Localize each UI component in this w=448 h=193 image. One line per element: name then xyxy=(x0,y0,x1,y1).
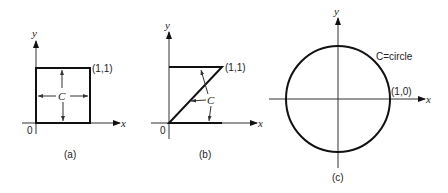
caption: (b) xyxy=(199,149,211,160)
caption: (a) xyxy=(64,149,76,160)
x-axis-label: x xyxy=(425,93,431,105)
x-axis-label: x xyxy=(120,117,126,129)
curve-label: C xyxy=(207,94,215,106)
point-label: (1,1) xyxy=(92,63,113,74)
callout-diagonal-icon xyxy=(191,100,206,101)
point-label: (1,0) xyxy=(391,86,412,97)
curve-label: C=circle xyxy=(376,51,413,62)
y-axis-label: y xyxy=(333,5,339,17)
figure-c: C=circle (1,0) x y (c) xyxy=(269,5,431,183)
y-axis-label: y xyxy=(164,19,170,31)
origin-label: 0 xyxy=(160,125,166,136)
y-axis-label: y xyxy=(31,27,37,39)
diagram-canvas: C (1,1) 0 x y (a) C (1,1) 0 x y (b) C=ci… xyxy=(0,0,448,193)
figure-a: C (1,1) 0 x y (a) xyxy=(22,27,126,160)
callout-bottom-icon xyxy=(209,106,211,121)
caption: (c) xyxy=(332,172,344,183)
origin-label: 0 xyxy=(27,125,33,136)
figure-b: C (1,1) 0 x y (b) xyxy=(151,19,263,160)
curve-label: C xyxy=(58,90,66,102)
point-label: (1,1) xyxy=(225,62,246,73)
x-axis-label: x xyxy=(257,117,263,129)
